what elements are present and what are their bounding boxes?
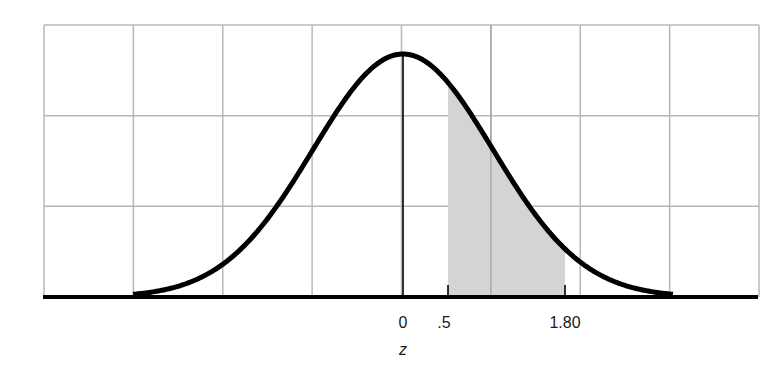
normal-curve-chart <box>0 0 783 371</box>
tick-label: 1.80 <box>549 314 580 332</box>
tick-label: .5 <box>437 314 450 332</box>
tick-label: 0 <box>399 314 408 332</box>
grid-lines <box>44 25 759 297</box>
shaded-region <box>448 83 565 297</box>
x-axis-label: z <box>399 341 407 359</box>
